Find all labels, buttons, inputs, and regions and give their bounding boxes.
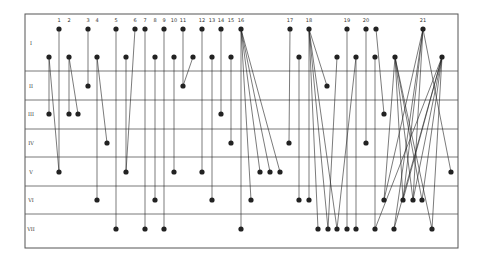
node-dot — [306, 26, 311, 31]
node-dot — [391, 226, 396, 231]
node-dot — [363, 26, 368, 31]
node-dot — [123, 54, 128, 59]
node-dot — [152, 197, 157, 202]
node-dot — [113, 26, 118, 31]
node-dot — [257, 169, 262, 174]
connection-line — [337, 57, 356, 229]
connection-line — [423, 29, 451, 172]
node-dot — [344, 226, 349, 231]
node-dot — [334, 226, 339, 231]
column-label: 7 — [143, 17, 146, 23]
diagram-frame — [25, 14, 458, 248]
column-label: 15 — [228, 17, 234, 23]
lineage-diagram: 123456789101112131415161718192021 IIIIII… — [0, 0, 481, 258]
node-dot — [66, 111, 71, 116]
node-dot — [392, 54, 397, 59]
connection-line — [384, 57, 395, 200]
row-label: I — [30, 40, 32, 46]
row-label: II — [29, 83, 33, 89]
node-dot — [161, 226, 166, 231]
node-dot — [353, 226, 358, 231]
node-dot — [419, 197, 424, 202]
node-dot — [372, 226, 377, 231]
node-dot — [381, 111, 386, 116]
column-label: 5 — [114, 17, 117, 23]
node-dot — [56, 169, 61, 174]
node-dot — [228, 140, 233, 145]
column-label: 9 — [162, 17, 165, 23]
column-label: 4 — [95, 17, 98, 23]
node-dot — [381, 197, 386, 202]
node-dot — [46, 111, 51, 116]
node-dot — [248, 197, 253, 202]
node-dot — [238, 26, 243, 31]
column-label: 16 — [238, 17, 244, 23]
column-label: 6 — [133, 17, 136, 23]
node-dot — [94, 54, 99, 59]
row-label: IV — [28, 140, 34, 146]
column-label: 21 — [420, 17, 426, 23]
node-dot — [94, 197, 99, 202]
node-dot — [296, 197, 301, 202]
column-label: 11 — [180, 17, 186, 23]
connection-line — [289, 29, 290, 143]
node-dot — [56, 26, 61, 31]
node-dot — [372, 54, 377, 59]
node-dot — [410, 197, 415, 202]
column-labels: 123456789101112131415161718192021 — [57, 17, 426, 23]
node-dot — [75, 111, 80, 116]
node-dot — [199, 169, 204, 174]
node-dot — [400, 197, 405, 202]
node-dot — [113, 226, 118, 231]
node-dot — [85, 83, 90, 88]
row-label: VII — [26, 226, 35, 232]
node-dot — [199, 26, 204, 31]
connection-line — [241, 29, 260, 172]
column-label: 10 — [171, 17, 177, 23]
node-dot — [286, 140, 291, 145]
node-dot — [439, 54, 444, 59]
node-dot — [152, 54, 157, 59]
node-dot — [132, 26, 137, 31]
node-dot — [296, 54, 301, 59]
column-label: 14 — [218, 17, 224, 23]
column-label: 20 — [363, 17, 369, 23]
node-dot — [46, 54, 51, 59]
node-dot — [287, 26, 292, 31]
node-dot — [420, 26, 425, 31]
node-dot — [324, 83, 329, 88]
connection-line — [395, 57, 432, 229]
node-dot — [161, 26, 166, 31]
node-dot — [325, 226, 330, 231]
node-dot — [142, 26, 147, 31]
node-dot — [190, 54, 195, 59]
node-dot — [171, 169, 176, 174]
connection-line — [183, 57, 193, 86]
node-dot — [209, 54, 214, 59]
node-dot — [85, 26, 90, 31]
node-dot — [180, 83, 185, 88]
column-label: 1 — [57, 17, 60, 23]
node-dot — [228, 54, 233, 59]
node-dot — [267, 169, 272, 174]
node-dot — [180, 26, 185, 31]
row-label: III — [28, 111, 34, 117]
grid-lines — [25, 14, 458, 248]
node-dot — [123, 169, 128, 174]
connection-line — [69, 57, 78, 114]
node-dot — [373, 26, 378, 31]
column-label: 8 — [153, 17, 156, 23]
column-label: 3 — [86, 17, 89, 23]
connection-line — [241, 29, 280, 172]
node-dot — [209, 197, 214, 202]
connection-line — [422, 57, 442, 200]
node-dot — [66, 54, 71, 59]
column-label: 18 — [306, 17, 312, 23]
node-dot — [218, 111, 223, 116]
connection-line — [375, 57, 442, 229]
column-label: 13 — [209, 17, 215, 23]
node-dot — [218, 26, 223, 31]
row-label: VI — [27, 197, 34, 203]
node-dot — [306, 197, 311, 202]
node-dot — [277, 169, 282, 174]
